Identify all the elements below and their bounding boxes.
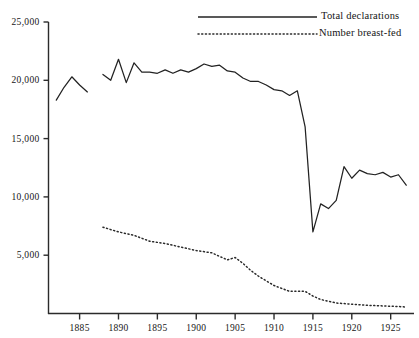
y-axis-tick-label: 25,000 bbox=[0, 17, 40, 27]
y-axis-tick-label: 20,000 bbox=[0, 75, 40, 85]
series-line bbox=[103, 227, 406, 307]
line-chart: 5,00010,00015,00020,00025,000 1885189018… bbox=[0, 0, 419, 338]
x-axis-tick-label: 1915 bbox=[303, 323, 323, 333]
chart-plot-area bbox=[0, 0, 419, 338]
legend-label-number-breast-fed: Number breast-fed bbox=[319, 27, 401, 38]
chart-series-group bbox=[56, 59, 406, 307]
x-axis-tick-label: 1925 bbox=[381, 323, 401, 333]
legend-sample-lines bbox=[198, 17, 317, 34]
y-axis-ticks bbox=[44, 22, 49, 255]
x-axis-tick-label: 1920 bbox=[342, 323, 362, 333]
series-line bbox=[56, 77, 87, 100]
series-line bbox=[103, 59, 406, 232]
y-axis-tick-label: 10,000 bbox=[0, 192, 40, 202]
x-axis-tick-label: 1890 bbox=[108, 323, 128, 333]
x-axis-tick-label: 1885 bbox=[69, 323, 89, 333]
x-axis-tick-label: 1895 bbox=[147, 323, 167, 333]
legend-label-total-declarations: Total declarations bbox=[321, 10, 399, 21]
x-axis-ticks bbox=[80, 314, 391, 320]
x-axis-tick-label: 1910 bbox=[264, 323, 284, 333]
x-axis-tick-label: 1900 bbox=[186, 323, 206, 333]
y-axis-tick-label: 5,000 bbox=[0, 250, 40, 260]
x-axis-tick-label: 1905 bbox=[225, 323, 245, 333]
y-axis-tick-label: 15,000 bbox=[0, 134, 40, 144]
